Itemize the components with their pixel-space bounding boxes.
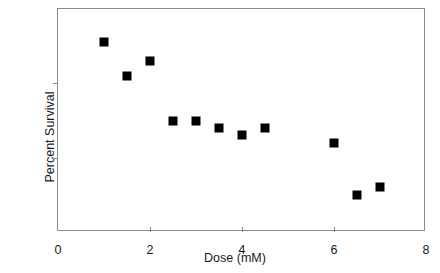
x-tick-label-8: 8 xyxy=(414,243,438,257)
x-tick-label-6: 6 xyxy=(322,243,346,257)
x-tick-label-0: 0 xyxy=(46,243,70,257)
scatter-chart-figure: Percent Survival Dose (mM) 979899100 024… xyxy=(0,0,440,273)
data-points-layer xyxy=(58,9,424,230)
data-point xyxy=(215,123,224,132)
x-tick-label-2: 2 xyxy=(138,243,162,257)
x-tick-label-4: 4 xyxy=(230,243,254,257)
data-point xyxy=(353,190,362,199)
data-point xyxy=(169,116,178,125)
data-point xyxy=(100,38,109,47)
data-point xyxy=(123,71,132,80)
data-point xyxy=(330,138,339,147)
plot-area: 979899100 02468 xyxy=(57,8,425,231)
y-axis-title: Percent Survival xyxy=(43,91,57,182)
data-point xyxy=(376,183,385,192)
data-point xyxy=(238,131,247,140)
data-point xyxy=(261,123,270,132)
data-point xyxy=(192,116,201,125)
data-point xyxy=(146,57,155,66)
